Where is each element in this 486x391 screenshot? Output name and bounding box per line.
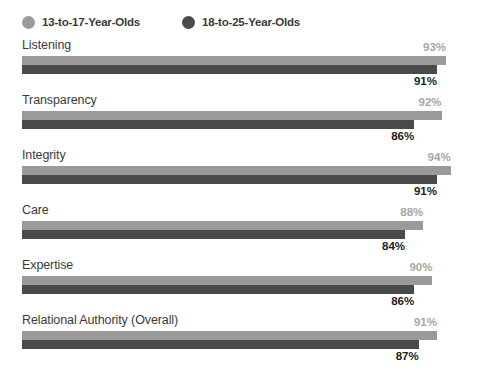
bar-light[interactable] bbox=[22, 276, 432, 285]
value-label-dark: 91% bbox=[414, 185, 437, 197]
bar-dark[interactable] bbox=[22, 120, 414, 129]
value-label-dark: 84% bbox=[382, 240, 405, 252]
bar-light[interactable] bbox=[22, 56, 446, 65]
legend-entry-1[interactable]: 18-to-25-Year-Olds bbox=[182, 16, 300, 29]
bar-group: Relational Authority (Overall)91%87% bbox=[0, 313, 486, 368]
bar-dark[interactable] bbox=[22, 230, 405, 239]
category-label: Relational Authority (Overall) bbox=[22, 313, 178, 327]
chart-plot-area: Listening93%91%Transparency92%86%Integri… bbox=[0, 38, 486, 368]
bar-light[interactable] bbox=[22, 111, 442, 120]
chart-legend: 13-to-17-Year-Olds18-to-25-Year-Olds bbox=[22, 12, 300, 32]
bar-group: Expertise90%86% bbox=[0, 258, 486, 313]
bar-track-light bbox=[22, 56, 478, 65]
bar-group: Care88%84% bbox=[0, 203, 486, 258]
relational-authority-bar-chart: 13-to-17-Year-Olds18-to-25-Year-Olds Lis… bbox=[0, 0, 486, 391]
bar-track-dark bbox=[22, 230, 478, 239]
category-label: Transparency bbox=[22, 93, 97, 107]
bar-track-dark bbox=[22, 65, 478, 74]
value-label-light: 90% bbox=[409, 261, 432, 273]
value-label-dark: 86% bbox=[391, 130, 414, 142]
bar-track-light bbox=[22, 111, 478, 120]
bar-light[interactable] bbox=[22, 166, 451, 175]
bar-track-dark bbox=[22, 285, 478, 294]
bar-group: Integrity94%91% bbox=[0, 148, 486, 203]
bar-track-dark bbox=[22, 340, 478, 349]
circle-swatch-icon bbox=[182, 16, 195, 29]
category-label: Integrity bbox=[22, 148, 66, 162]
value-label-light: 91% bbox=[414, 316, 437, 328]
bar-dark[interactable] bbox=[22, 340, 419, 349]
category-label: Expertise bbox=[22, 258, 73, 272]
value-label-light: 88% bbox=[400, 206, 423, 218]
bar-dark[interactable] bbox=[22, 285, 414, 294]
bar-dark[interactable] bbox=[22, 175, 437, 184]
bar-light[interactable] bbox=[22, 331, 437, 340]
category-label: Care bbox=[22, 203, 49, 217]
bar-track-light bbox=[22, 331, 478, 340]
bar-light[interactable] bbox=[22, 221, 423, 230]
bar-track-light bbox=[22, 276, 478, 285]
value-label-light: 92% bbox=[419, 96, 442, 108]
value-label-dark: 86% bbox=[391, 295, 414, 307]
legend-entry-0[interactable]: 13-to-17-Year-Olds bbox=[22, 16, 140, 29]
bar-dark[interactable] bbox=[22, 65, 437, 74]
bar-group: Listening93%91% bbox=[0, 38, 486, 93]
bar-track-dark bbox=[22, 120, 478, 129]
bar-track-light bbox=[22, 221, 478, 230]
value-label-dark: 87% bbox=[396, 350, 419, 362]
circle-swatch-icon bbox=[22, 16, 35, 29]
bar-track-light bbox=[22, 166, 478, 175]
legend-label: 18-to-25-Year-Olds bbox=[202, 16, 300, 28]
value-label-dark: 91% bbox=[414, 75, 437, 87]
bar-track-dark bbox=[22, 175, 478, 184]
legend-label: 13-to-17-Year-Olds bbox=[42, 16, 140, 28]
value-label-light: 94% bbox=[428, 151, 451, 163]
value-label-light: 93% bbox=[423, 41, 446, 53]
bar-group: Transparency92%86% bbox=[0, 93, 486, 148]
category-label: Listening bbox=[22, 38, 71, 52]
